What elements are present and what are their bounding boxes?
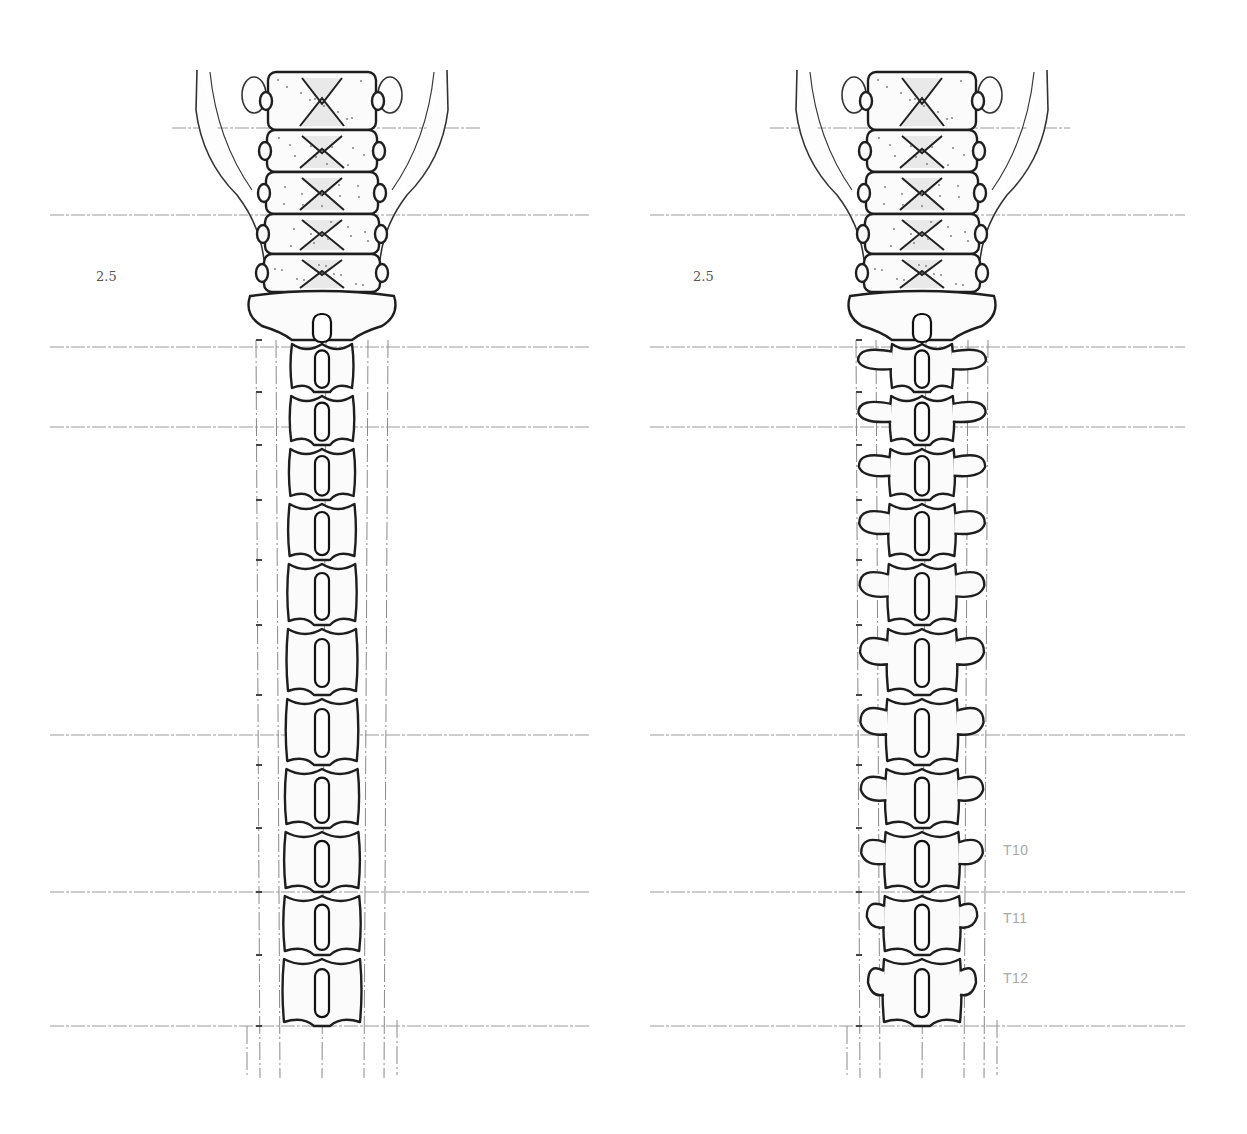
bone-texture-dot xyxy=(960,80,962,82)
spinous-process xyxy=(915,841,929,887)
bone-texture-dot xyxy=(921,205,923,207)
bone-texture-dot xyxy=(890,245,892,247)
cervical-lateral-mass xyxy=(974,184,986,202)
bone-texture-dot xyxy=(896,278,898,280)
spinous-process xyxy=(315,709,329,757)
bone-texture-dot xyxy=(958,196,960,198)
bone-texture-dot xyxy=(294,155,296,157)
bone-texture-dot xyxy=(318,264,320,266)
gridline-vertical xyxy=(384,340,388,1078)
bone-texture-dot xyxy=(363,154,365,156)
right-spine-panel xyxy=(796,70,1048,1078)
bone-texture-dot xyxy=(310,145,312,147)
gridline-vertical xyxy=(984,340,988,1078)
bone-texture-dot xyxy=(902,204,904,206)
bone-texture-dot xyxy=(952,147,954,149)
bone-texture-dot xyxy=(347,164,349,166)
bone-texture-dot xyxy=(903,279,905,281)
bone-texture-dot xyxy=(939,195,941,197)
transverse-process-left xyxy=(860,708,887,735)
label-t12: T12 xyxy=(1003,970,1029,986)
bone-texture-dot xyxy=(283,203,285,205)
bone-texture-dot xyxy=(325,265,327,267)
bone-texture-dot xyxy=(323,105,325,107)
transverse-process-left xyxy=(867,904,885,928)
spinous-process xyxy=(315,639,329,687)
transverse-process-right xyxy=(960,968,976,995)
transverse-process-right xyxy=(954,511,984,534)
transverse-process-left xyxy=(868,968,884,995)
bone-texture-dot xyxy=(350,235,352,237)
cervical-lateral-mass xyxy=(860,92,872,110)
bone-texture-dot xyxy=(877,79,879,81)
transverse-process-right xyxy=(953,402,986,422)
bone-texture-dot xyxy=(274,268,276,270)
bone-texture-dot xyxy=(931,146,933,148)
transverse-process-right xyxy=(959,904,977,928)
spinous-process xyxy=(315,778,329,823)
bone-texture-dot xyxy=(362,284,364,286)
spinous-process xyxy=(315,841,329,887)
bone-texture-dot xyxy=(947,226,949,228)
bone-texture-dot xyxy=(301,193,303,195)
right-scale-label: 2.5 xyxy=(693,269,714,284)
bone-texture-dot xyxy=(913,242,915,244)
bone-texture-dot xyxy=(278,137,280,139)
left-scale-label: 2.5 xyxy=(96,269,117,284)
cervical-lateral-mass xyxy=(373,142,385,160)
bone-texture-dot xyxy=(315,156,317,158)
transverse-process-right xyxy=(952,350,986,370)
transverse-process-left xyxy=(859,511,889,534)
bone-texture-dot xyxy=(338,184,340,186)
transverse-process-right xyxy=(958,840,982,864)
bone-texture-dot xyxy=(967,240,969,242)
bone-texture-dot xyxy=(957,185,959,187)
cervical-lateral-mass xyxy=(376,264,388,282)
bone-texture-dot xyxy=(339,195,341,197)
bone-texture-dot xyxy=(309,99,311,101)
bone-texture-dot xyxy=(950,235,952,237)
bone-texture-dot xyxy=(333,273,335,275)
transverse-process-right xyxy=(956,638,984,665)
spinous-process xyxy=(915,512,929,555)
spinous-process xyxy=(915,403,929,441)
bone-texture-dot xyxy=(874,268,876,270)
cervical-lateral-mass xyxy=(256,264,268,282)
spinous-process xyxy=(315,969,329,1017)
spinous-process xyxy=(915,778,929,823)
bone-texture-dot xyxy=(337,111,339,113)
transverse-process-left xyxy=(858,402,891,422)
label-t11: T11 xyxy=(1003,910,1028,926)
bone-texture-dot xyxy=(357,185,359,187)
bone-texture-dot xyxy=(327,238,329,240)
spinous-process xyxy=(915,709,929,757)
transverse-process-left xyxy=(859,455,891,476)
bone-texture-dot xyxy=(946,118,948,120)
bone-texture-dot xyxy=(930,221,932,223)
bone-texture-dot xyxy=(310,233,312,235)
cervical-lateral-mass xyxy=(857,225,869,243)
bone-texture-dot xyxy=(955,283,957,285)
c7-spinous-process xyxy=(913,314,931,342)
bone-texture-dot xyxy=(360,80,362,82)
transverse-process-left xyxy=(860,638,888,665)
cervical-lateral-mass xyxy=(259,142,271,160)
bone-texture-dot xyxy=(938,184,940,186)
bone-texture-dot xyxy=(925,265,927,267)
spinous-process xyxy=(315,456,329,496)
cervical-lateral-mass xyxy=(856,264,868,282)
bone-texture-dot xyxy=(321,205,323,207)
bone-texture-dot xyxy=(951,117,953,119)
bone-texture-dot xyxy=(314,98,316,100)
bone-texture-dot xyxy=(320,194,322,196)
cervical-lateral-mass xyxy=(858,184,870,202)
c7-spinous-process xyxy=(313,314,331,342)
bone-texture-dot xyxy=(367,240,369,242)
spinous-process xyxy=(315,350,329,387)
bone-texture-dot xyxy=(355,283,357,285)
bone-texture-dot xyxy=(963,154,965,156)
cervical-lateral-mass xyxy=(374,184,386,202)
bone-texture-dot xyxy=(937,111,939,113)
spinous-process xyxy=(915,573,929,620)
construction-grid xyxy=(50,128,1185,1026)
